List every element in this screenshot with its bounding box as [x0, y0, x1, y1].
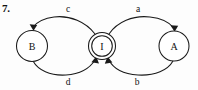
- node-a-label: A: [170, 41, 178, 52]
- edge-d: d: [33, 56, 99, 87]
- edge-a-path: [109, 17, 174, 34]
- node-b: B: [17, 31, 48, 62]
- edge-c-path: [33, 17, 95, 34]
- edge-b: b: [105, 56, 173, 87]
- node-i-label: I: [100, 41, 103, 52]
- edge-c-label: c: [66, 4, 70, 14]
- figure-container: 7. c a d b B: [0, 0, 198, 90]
- edge-b-label: b: [135, 77, 140, 87]
- state-diagram: c a d b B I: [0, 0, 198, 90]
- edge-a: a: [109, 4, 178, 34]
- node-b-label: B: [29, 41, 36, 52]
- edge-c: c: [30, 4, 95, 34]
- edge-d-label: d: [66, 77, 71, 87]
- edge-b-path: [109, 60, 173, 75]
- edge-d-path: [33, 60, 95, 75]
- edge-c-arrowhead: [30, 24, 38, 31]
- node-i: I: [89, 33, 116, 60]
- node-a: A: [159, 31, 189, 61]
- edge-a-label: a: [136, 4, 141, 14]
